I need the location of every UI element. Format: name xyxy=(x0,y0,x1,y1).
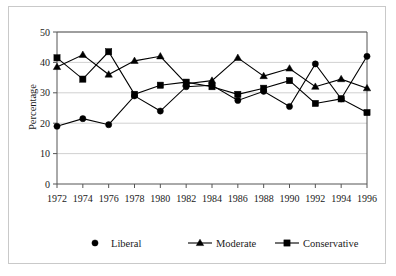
x-tick-label: 1984 xyxy=(202,193,222,204)
legend-label: Liberal xyxy=(111,238,141,249)
circle-marker xyxy=(364,53,370,59)
square-marker xyxy=(338,96,344,102)
circle-marker xyxy=(92,240,98,246)
legend-item-conservative[interactable]: Conservative xyxy=(275,238,359,249)
circle-marker xyxy=(157,108,163,114)
square-marker xyxy=(261,85,267,91)
circle-marker xyxy=(312,61,318,67)
y-axis-tick-labels: 01020304050 xyxy=(40,27,50,190)
x-tick-label: 1980 xyxy=(150,193,170,204)
square-marker xyxy=(209,84,215,90)
square-marker xyxy=(131,91,137,97)
triangle-marker xyxy=(196,239,203,245)
x-tick-label: 1996 xyxy=(357,193,377,204)
y-axis-title: Percentage xyxy=(27,84,38,130)
line-chart: 01020304050 1972197419761978198019821984… xyxy=(0,0,396,276)
triangle-marker xyxy=(286,65,293,71)
legend-label: Conservative xyxy=(303,238,359,249)
triangle-marker xyxy=(234,54,241,60)
legend-item-liberal[interactable]: Liberal xyxy=(92,238,141,249)
square-marker xyxy=(106,49,112,55)
y-tick-label: 10 xyxy=(40,148,50,159)
circle-marker xyxy=(286,103,292,109)
x-axis-ticks xyxy=(57,184,367,188)
square-marker xyxy=(80,76,86,82)
series-line xyxy=(57,56,367,126)
series-liberal xyxy=(54,53,370,129)
y-tick-label: 50 xyxy=(40,27,50,38)
triangle-marker xyxy=(105,71,112,77)
circle-marker xyxy=(80,116,86,122)
data-series-group xyxy=(53,49,370,130)
square-marker xyxy=(235,91,241,97)
triangle-marker xyxy=(337,75,344,81)
x-tick-label: 1988 xyxy=(254,193,274,204)
x-tick-label: 1978 xyxy=(125,193,145,204)
square-marker xyxy=(54,55,60,61)
triangle-marker xyxy=(157,53,164,59)
x-tick-label: 1972 xyxy=(47,193,67,204)
square-marker xyxy=(157,82,163,88)
circle-marker xyxy=(235,97,241,103)
square-marker xyxy=(364,109,370,115)
x-tick-label: 1976 xyxy=(99,193,119,204)
x-tick-label: 1990 xyxy=(280,193,300,204)
circle-marker xyxy=(54,123,60,129)
legend-item-moderate[interactable]: Moderate xyxy=(188,238,257,249)
x-tick-label: 1982 xyxy=(176,193,196,204)
legend-label: Moderate xyxy=(216,238,257,249)
y-tick-label: 0 xyxy=(45,179,50,190)
y-tick-label: 20 xyxy=(40,118,50,129)
x-tick-label: 1974 xyxy=(73,193,93,204)
x-axis-tick-labels: 1972197419761978198019821984198619881990… xyxy=(47,193,377,204)
y-tick-label: 30 xyxy=(40,87,50,98)
plot-frame xyxy=(57,32,367,184)
triangle-marker xyxy=(53,63,60,69)
chart-legend: LiberalModerateConservative xyxy=(92,238,359,249)
square-marker xyxy=(284,240,290,246)
triangle-marker xyxy=(79,51,86,57)
chart-canvas: 01020304050 1972197419761978198019821984… xyxy=(0,0,396,276)
square-marker xyxy=(286,78,292,84)
x-tick-label: 1986 xyxy=(228,193,248,204)
gridlines-group xyxy=(57,32,367,154)
y-tick-label: 40 xyxy=(40,57,50,68)
square-marker xyxy=(312,100,318,106)
x-tick-label: 1992 xyxy=(305,193,325,204)
circle-marker xyxy=(106,122,112,128)
x-tick-label: 1994 xyxy=(331,193,351,204)
square-marker xyxy=(183,79,189,85)
